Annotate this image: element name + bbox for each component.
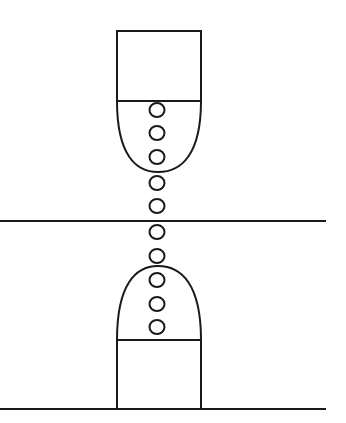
particle-sphere [150,320,165,334]
particle-sphere [150,176,165,190]
particle-sphere [150,225,165,239]
electrode-body [117,31,201,101]
particle-sphere [150,297,165,311]
particle-sphere [150,249,165,263]
particle-chain-diagram [0,0,346,423]
particle-sphere [150,199,165,213]
particle-chain [150,103,165,334]
particle-sphere [150,150,165,164]
particle-sphere [150,103,165,117]
horizontal-lines [0,221,326,409]
particle-sphere [150,273,165,287]
particle-sphere [150,126,165,140]
electrode-body [117,340,201,409]
